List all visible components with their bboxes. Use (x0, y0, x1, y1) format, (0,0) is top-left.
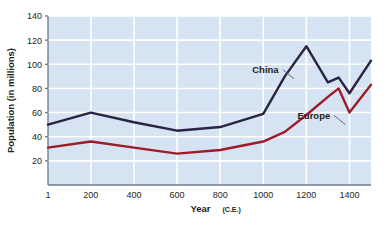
y-axis-title: Population (in millions) (5, 48, 16, 153)
x-tick-label: 200 (83, 190, 98, 200)
y-tick-label: 60 (32, 108, 42, 118)
x-tick-label: 400 (126, 190, 141, 200)
x-tick-label: 800 (213, 190, 228, 200)
x-tick-label: 1 (45, 190, 50, 200)
y-tick-labels-group: 20406080100120140 (27, 11, 42, 166)
x-tick-label: 1200 (296, 190, 316, 200)
x-tick-label: 1400 (339, 190, 359, 200)
x-axis-title: Year (190, 203, 210, 214)
x-axis-title-suffix: (C.E.) (223, 206, 241, 214)
x-tick-label: 1000 (253, 190, 273, 200)
y-tick-label: 100 (27, 60, 42, 70)
series-label-europe: Europe (298, 110, 331, 121)
x-tick-label: 600 (170, 190, 185, 200)
population-line-chart: 20406080100120140 1200400600800100012001… (0, 0, 388, 233)
y-tick-label: 140 (27, 11, 42, 21)
y-tick-label: 80 (32, 84, 42, 94)
series-label-china: China (252, 64, 279, 75)
y-tick-label: 20 (32, 156, 42, 166)
y-tick-label: 40 (32, 132, 42, 142)
x-tick-labels-group: 1200400600800100012001400 (45, 190, 359, 200)
chart-canvas: 20406080100120140 1200400600800100012001… (0, 0, 388, 233)
y-tick-label: 120 (27, 36, 42, 46)
